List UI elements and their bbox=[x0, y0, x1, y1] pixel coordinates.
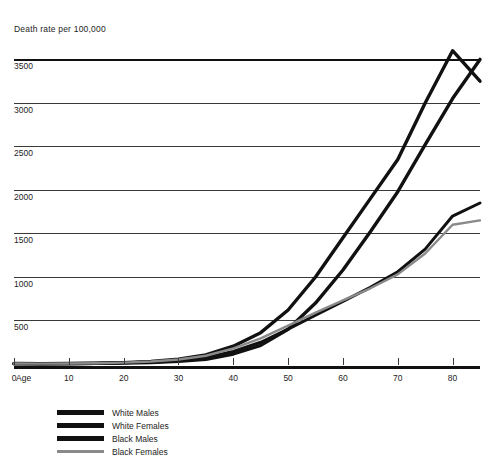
series-line bbox=[14, 51, 480, 364]
plot-area bbox=[14, 42, 480, 364]
y-axis-title: Death rate per 100,000 bbox=[14, 24, 106, 34]
y-axis-tick-label: 2000 bbox=[14, 192, 33, 202]
y-axis-tick-label: 2500 bbox=[14, 148, 33, 158]
x-axis-tick-label: 80 bbox=[448, 373, 457, 383]
x-axis-tick bbox=[343, 358, 344, 365]
x-axis-tick-label: 20 bbox=[119, 373, 128, 383]
x-axis-tick-label: 40 bbox=[229, 373, 238, 383]
x-axis-tick-label: 60 bbox=[338, 373, 347, 383]
legend-item[interactable]: Black Males bbox=[57, 432, 277, 445]
series-lines bbox=[14, 42, 480, 364]
x-axis-line bbox=[14, 366, 480, 369]
legend-item[interactable]: Black Females bbox=[57, 445, 277, 458]
y-axis-tick-label: 1000 bbox=[14, 279, 33, 289]
legend-swatch-icon bbox=[57, 423, 104, 427]
legend-item-label: White Females bbox=[112, 421, 169, 431]
x-axis-tick-label: 0 bbox=[12, 373, 17, 383]
x-axis-title: Age bbox=[16, 373, 31, 383]
legend-item-label: Black Females bbox=[112, 447, 168, 457]
series-line bbox=[14, 220, 480, 363]
x-axis-tick bbox=[233, 358, 234, 365]
death-rate-line-chart: Death rate per 100,000 50010001500200025… bbox=[0, 0, 495, 468]
legend-item[interactable]: White Males bbox=[57, 406, 277, 419]
legend: White MalesWhite FemalesBlack MalesBlack… bbox=[57, 406, 277, 458]
x-axis-tick bbox=[178, 358, 179, 365]
y-axis-tick-label: 1500 bbox=[14, 235, 33, 245]
y-axis-tick-label: 500 bbox=[14, 322, 28, 332]
x-axis-tick-label: 10 bbox=[64, 373, 73, 383]
x-axis-tick bbox=[453, 358, 454, 365]
x-axis-tick bbox=[398, 358, 399, 365]
legend-swatch-icon bbox=[57, 410, 104, 415]
legend-item[interactable]: White Females bbox=[57, 419, 277, 432]
x-axis-tick bbox=[14, 358, 15, 365]
legend-swatch-icon bbox=[57, 436, 104, 441]
legend-item-label: Black Males bbox=[112, 434, 158, 444]
x-axis-tick bbox=[124, 358, 125, 365]
series-line bbox=[14, 59, 480, 363]
x-axis-tick-label: 70 bbox=[393, 373, 402, 383]
x-axis-tick-label: 30 bbox=[174, 373, 183, 383]
y-axis-tick-label: 3000 bbox=[14, 105, 33, 115]
x-axis-tick bbox=[288, 358, 289, 365]
legend-swatch-icon bbox=[57, 450, 104, 453]
x-axis-tick bbox=[69, 358, 70, 365]
x-axis-tick-label: 50 bbox=[283, 373, 292, 383]
legend-item-label: White Males bbox=[112, 408, 159, 418]
y-axis-tick-label: 3500 bbox=[14, 61, 33, 71]
